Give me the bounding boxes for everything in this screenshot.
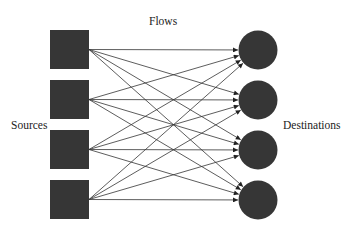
flow-edge-3-to-2: [89, 106, 239, 150]
flows-label: Flows: [149, 16, 177, 28]
flow-edges: [89, 50, 243, 200]
flow-diagram: [0, 0, 351, 234]
destination-node-2: [239, 81, 278, 120]
flow-edge-2-to-1: [89, 56, 239, 100]
flow-edge-1-to-2: [89, 50, 239, 95]
flow-edge-1-to-4: [89, 50, 243, 187]
destination-nodes: [239, 31, 278, 220]
source-nodes: [50, 30, 89, 219]
destination-node-4: [239, 181, 278, 220]
flow-edge-2-to-3: [89, 100, 239, 145]
flow-edge-2-to-4: [89, 100, 241, 190]
source-node-1: [50, 30, 89, 69]
destination-node-3: [239, 131, 278, 170]
destinations-label: Destinations: [283, 120, 341, 132]
flow-edge-1-to-3: [89, 50, 241, 140]
source-node-4: [50, 180, 89, 219]
flow-edge-4-to-1: [89, 63, 243, 199]
destination-node-1: [239, 31, 278, 70]
source-node-3: [50, 130, 89, 169]
flow-edge-4-to-3: [89, 156, 239, 200]
source-node-2: [50, 80, 89, 119]
sources-label: Sources: [11, 120, 47, 132]
flow-edge-3-to-4: [89, 150, 239, 195]
flow-edge-3-to-1: [89, 60, 241, 149]
flow-edge-4-to-2: [89, 110, 241, 199]
